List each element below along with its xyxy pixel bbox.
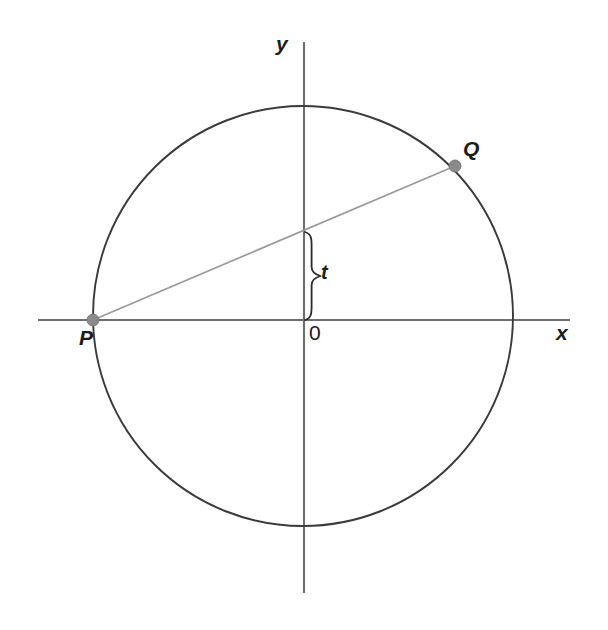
unit-circle-figure: y x P Q t 0 (0, 0, 608, 630)
y-axis-label: y (276, 33, 288, 54)
brace-t-label: t (321, 262, 328, 282)
point-q-label: Q (463, 138, 479, 159)
brace-t (305, 232, 321, 320)
geometry-canvas (0, 0, 608, 630)
x-axis-label: x (556, 322, 568, 343)
chord-pq-line (93, 166, 455, 320)
origin-label: 0 (309, 322, 321, 343)
point-q (449, 160, 461, 172)
point-p (87, 314, 99, 326)
point-p-label: P (79, 327, 93, 348)
